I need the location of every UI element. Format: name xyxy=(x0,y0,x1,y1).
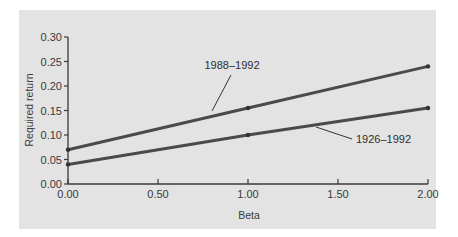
y-tick-label: 0.25 xyxy=(41,56,62,68)
y-tick-label: 0.05 xyxy=(41,154,62,166)
y-axis-title: Required return xyxy=(23,73,35,146)
y-tick-label: 0.10 xyxy=(41,129,62,141)
x-tick-label: 0.50 xyxy=(147,188,168,200)
data-point xyxy=(246,133,250,137)
series-label-1926-1992: 1926–1992 xyxy=(356,133,411,145)
x-axis-title: Beta xyxy=(238,209,260,221)
x-tick-label: 2.00 xyxy=(417,188,438,200)
x-tick-label: 0.00 xyxy=(57,188,78,200)
data-point xyxy=(66,148,70,152)
x-tick-label: 1.50 xyxy=(327,188,348,200)
data-point xyxy=(66,162,70,166)
data-point xyxy=(426,64,430,68)
y-tick-label: 0.30 xyxy=(41,31,62,43)
line-chart: 0.000.050.100.150.200.250.300.000.501.00… xyxy=(0,0,458,237)
series-labels: 1988–19921926–1992 xyxy=(204,59,411,145)
data-point xyxy=(246,106,250,110)
y-tick-label: 0.20 xyxy=(41,80,62,92)
series-lines xyxy=(66,64,430,166)
series-label-1988-1992: 1988–1992 xyxy=(204,59,259,71)
y-tick-label: 0.15 xyxy=(41,105,62,117)
data-point xyxy=(426,106,430,110)
x-tick-label: 1.00 xyxy=(237,188,258,200)
